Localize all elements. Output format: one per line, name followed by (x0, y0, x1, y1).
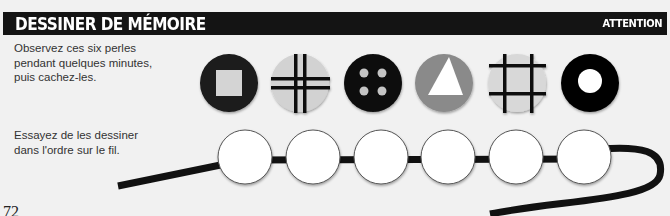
answer-bead-1[interactable] (218, 130, 272, 184)
bead-artwork (0, 0, 670, 216)
bead-square (200, 54, 258, 112)
bead-hash (488, 54, 546, 113)
page-number: 72 (3, 204, 19, 216)
answer-bead-3[interactable] (354, 130, 408, 184)
bead-double-cross (271, 54, 330, 113)
answer-bead-5[interactable] (489, 130, 543, 184)
answer-bead-6[interactable] (557, 130, 611, 184)
bead-four-dots (344, 54, 402, 112)
answer-bead-4[interactable] (421, 130, 475, 184)
answer-bead-2[interactable] (286, 130, 340, 184)
bead-triangle (415, 54, 473, 112)
bead-ring (561, 54, 619, 112)
